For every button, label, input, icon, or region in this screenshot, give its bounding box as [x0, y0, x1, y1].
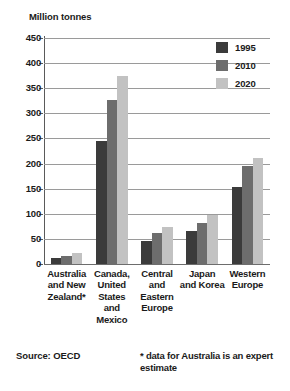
bar	[242, 166, 253, 264]
y-tick-label: 450	[26, 32, 41, 43]
chart-legend: 199520102020	[216, 42, 256, 89]
bar	[141, 241, 152, 264]
bar	[232, 187, 243, 264]
bar	[72, 253, 83, 264]
legend-swatch-icon	[216, 60, 228, 71]
bar	[61, 256, 72, 264]
y-tick-label: 350	[26, 82, 41, 93]
source-note: Source: OECD	[16, 350, 80, 361]
legend-item: 1995	[216, 42, 256, 53]
legend-swatch-icon	[216, 78, 228, 89]
x-category-label: CentralandEasternEurope	[133, 268, 181, 314]
legend-label: 2020	[235, 78, 256, 89]
bar	[253, 158, 264, 264]
bar-group	[89, 38, 134, 264]
axis-baseline	[44, 264, 270, 265]
bar	[186, 231, 197, 264]
bar	[152, 233, 163, 264]
bar-group	[44, 38, 89, 264]
chart-figure: Million tonnes 0501001502002503003504004…	[0, 0, 290, 391]
legend-item: 2020	[216, 78, 256, 89]
x-category-label: Japanand Korea	[175, 268, 229, 291]
y-tick-label: 200	[26, 158, 41, 169]
footnote: * data for Australia is an expert estima…	[140, 350, 280, 374]
legend-item: 2010	[216, 60, 256, 71]
bar	[197, 223, 208, 264]
bar	[117, 76, 128, 264]
y-axis-title: Million tonnes	[29, 11, 91, 22]
y-tick-label: 100	[26, 208, 41, 219]
y-tick-label: 300	[26, 107, 41, 118]
bar	[162, 227, 173, 264]
x-category-label: Canada,UnitedStatesandMexico	[89, 268, 135, 325]
x-category-label: WesternEurope	[222, 268, 272, 291]
y-tick-label: 400	[26, 57, 41, 68]
bar	[51, 258, 62, 264]
x-axis-category-labels: Australiaand NewZealand*Canada,UnitedSta…	[44, 268, 276, 338]
legend-swatch-icon	[216, 42, 228, 53]
legend-label: 1995	[235, 42, 256, 53]
y-tick-label: 50	[31, 233, 41, 244]
bar-group	[134, 38, 179, 264]
y-tick-label: 250	[26, 132, 41, 143]
bar	[207, 215, 218, 264]
bar	[107, 100, 118, 264]
y-tick-label: 150	[26, 183, 41, 194]
bar	[96, 141, 107, 264]
x-category-label: Australiaand NewZealand*	[41, 268, 93, 302]
legend-label: 2010	[235, 60, 256, 71]
